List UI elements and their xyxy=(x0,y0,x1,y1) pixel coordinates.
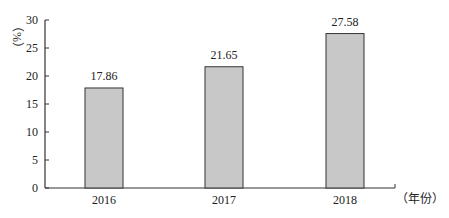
bar-chart: 051015202530 201620172018 17.8621.6527.5… xyxy=(0,0,449,218)
y-tick-label: 20 xyxy=(26,69,38,83)
x-tick-label-2017: 2017 xyxy=(212,193,236,207)
value-label-2016: 17.86 xyxy=(91,69,118,83)
y-tick-label: 10 xyxy=(26,125,38,139)
y-tick-label: 0 xyxy=(32,181,38,195)
y-tick-label: 25 xyxy=(26,41,38,55)
x-tick-label-2018: 2018 xyxy=(333,193,357,207)
bar-2018 xyxy=(326,34,364,188)
x-axis-label: （年份） xyxy=(396,192,444,206)
value-label-2017: 21.65 xyxy=(211,48,238,62)
bar-2016 xyxy=(85,88,123,188)
y-axis-label: （%） xyxy=(10,20,24,54)
y-tick-label: 5 xyxy=(32,153,38,167)
y-tick-label: 15 xyxy=(26,97,38,111)
y-axis: 051015202530 xyxy=(26,13,49,195)
bars: 17.8621.6527.58 xyxy=(85,15,364,188)
value-label-2018: 27.58 xyxy=(332,15,359,29)
bar-2017 xyxy=(205,67,243,188)
y-tick-label: 30 xyxy=(26,13,38,27)
x-tick-label-2016: 2016 xyxy=(92,193,116,207)
